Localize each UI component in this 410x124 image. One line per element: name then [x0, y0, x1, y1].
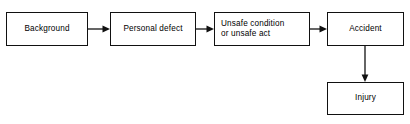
arrow-unsafe-condition-to-accident: [310, 23, 327, 35]
flowchart-node-personal-defect[interactable]: Personal defect: [110, 12, 196, 46]
arrow-accident-to-injury: [359, 46, 371, 82]
flowchart-canvas: Background Personal defect Unsafe condit…: [0, 0, 410, 124]
arrow-personal-defect-to-unsafe-condition: [196, 23, 214, 35]
flowchart-node-unsafe-condition[interactable]: Unsafe condition or unsafe act: [214, 12, 310, 46]
flowchart-node-unsafe-condition-label: Unsafe condition or unsafe act: [221, 19, 284, 40]
flowchart-node-background[interactable]: Background: [6, 12, 88, 46]
arrow-background-to-personal-defect: [88, 23, 110, 35]
flowchart-node-injury-label: Injury: [355, 93, 376, 104]
flowchart-node-injury[interactable]: Injury: [327, 82, 404, 115]
flowchart-node-personal-defect-label: Personal defect: [123, 24, 182, 35]
flowchart-node-accident[interactable]: Accident: [327, 12, 404, 46]
flowchart-node-background-label: Background: [24, 24, 69, 35]
flowchart-node-accident-label: Accident: [349, 24, 382, 35]
